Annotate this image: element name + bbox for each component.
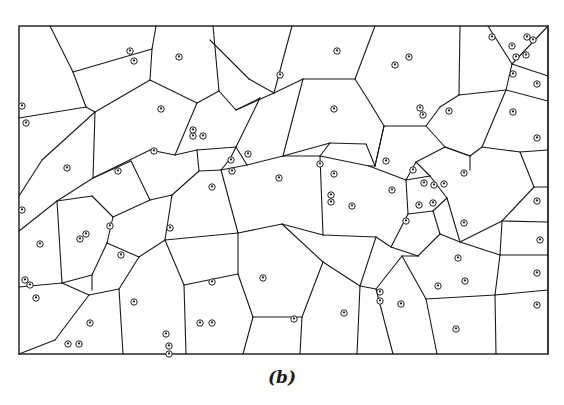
site-marker-icon (383, 158, 389, 164)
site-marker-icon (209, 184, 215, 190)
site-marker-icon (77, 236, 83, 242)
site-marker-icon (534, 270, 540, 276)
voronoi-edge (391, 247, 418, 256)
site-marker-icon (229, 168, 235, 174)
voronoi-edge (62, 283, 89, 295)
site-marker-icon (118, 252, 124, 258)
voronoi-edge (512, 64, 548, 76)
voronoi-edge (470, 147, 482, 156)
voronoi-edge (55, 295, 89, 340)
voronoi-edge (62, 275, 92, 283)
site-marker-icon (19, 103, 25, 109)
voronoi-edge (360, 286, 376, 289)
voronoi-edge (460, 242, 500, 255)
site-marker-icon (446, 108, 452, 114)
voronoi-edge (406, 176, 430, 180)
site-marker-icon (389, 187, 395, 193)
site-marker-icon (331, 106, 337, 112)
voronoi-edge (249, 79, 274, 93)
voronoi-edge (300, 317, 302, 354)
voronoi-edge (459, 26, 460, 95)
site-marker-icon (534, 302, 540, 308)
site-marker-icon (115, 168, 121, 174)
site-marker-icon (331, 171, 337, 177)
site-marker-icon (277, 72, 283, 78)
site-marker-icon (431, 182, 437, 188)
voronoi-edge (19, 160, 42, 196)
site-marker-icon (151, 148, 157, 154)
voronoi-edge (219, 91, 236, 110)
voronoi-edge (92, 243, 107, 275)
site-marker-icon (328, 192, 334, 198)
voronoi-edge (440, 95, 459, 107)
site-marker-icon (410, 167, 416, 173)
site-marker-icon (510, 109, 516, 115)
voronoi-edge (426, 295, 495, 299)
voronoi-edge (488, 26, 512, 64)
site-marker-icon (534, 198, 540, 204)
voronoi-edge (57, 201, 62, 283)
voronoi-edge (113, 200, 150, 217)
voronoi-edge (502, 221, 548, 222)
voronoi-edge (320, 156, 369, 166)
voronoi-edge (506, 90, 548, 101)
voronoi-edge (426, 299, 437, 354)
voronoi-edge (197, 91, 219, 103)
site-marker-icon (523, 52, 529, 58)
site-marker-icon (524, 34, 530, 40)
site-marker-icon (65, 341, 71, 347)
voronoi-edge (247, 156, 283, 165)
voronoi-edge (150, 195, 172, 200)
voronoi-edge (406, 180, 408, 214)
site-marker-icon (489, 34, 495, 40)
site-marker-icon (435, 283, 441, 289)
site-marker-icon (420, 112, 426, 118)
site-marker-icon (398, 301, 404, 307)
site-marker-icon (83, 231, 89, 237)
voronoi-edge (302, 262, 323, 317)
voronoi-edge (107, 217, 113, 243)
site-marker-icon (245, 151, 251, 157)
site-marker-icon (190, 133, 196, 139)
voronoi-edge (482, 147, 520, 152)
voronoi-edge (150, 80, 197, 103)
site-marker-icon (509, 43, 515, 49)
site-marker-icon (377, 298, 383, 304)
voronoi-edge (236, 98, 260, 110)
site-marker-icon (166, 351, 172, 357)
site-marker-icon (197, 320, 203, 326)
voronoi-edge (50, 26, 73, 72)
site-marker-icon (334, 48, 340, 54)
voronoi-edge (408, 211, 433, 214)
site-marker-icon (131, 299, 137, 305)
voronoi-edge (376, 256, 402, 289)
voronoi-edge (19, 340, 55, 354)
site-marker-icon (534, 135, 540, 141)
voronoi-edge (236, 98, 260, 147)
site-marker-icon (461, 220, 467, 226)
voronoi-edge (495, 295, 496, 354)
voronoi-edge (418, 234, 440, 256)
site-marker-icon (513, 54, 519, 60)
voronoi-edge (320, 156, 323, 235)
site-marker-icon (328, 199, 334, 205)
voronoi-edge (372, 106, 384, 126)
voronoi-edge (402, 256, 426, 299)
site-marker-icon (131, 58, 137, 64)
site-marker-icon (291, 316, 297, 322)
voronoi-edge (520, 150, 548, 152)
site-marker-icon (462, 278, 468, 284)
site-marker-icon (534, 81, 540, 87)
voronoi-edge (199, 170, 221, 171)
voronoi-edge (150, 49, 152, 80)
voronoi-edge (274, 26, 292, 93)
voronoi-edge (323, 262, 360, 286)
voronoi-edge (283, 143, 330, 156)
site-marker-icon (23, 120, 29, 126)
site-marker-icon (27, 282, 33, 288)
site-marker-icon (349, 203, 355, 209)
voronoi-edge (426, 107, 440, 126)
site-marker-icon (22, 277, 28, 283)
voronoi-edge (73, 72, 86, 107)
site-marker-icon (406, 54, 412, 60)
